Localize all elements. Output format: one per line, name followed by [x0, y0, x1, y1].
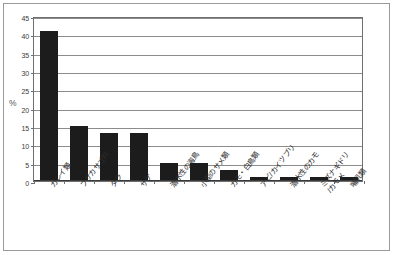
y-tick-label: 40	[22, 33, 29, 40]
chart-figure: % 051015202530354045 カレイ類フサカサゴ科タラサケ潜水性の海…	[0, 0, 394, 255]
y-tick-label: 5	[25, 161, 29, 168]
bar[interactable]	[40, 31, 58, 181]
x-tick-mark	[364, 181, 365, 184]
bar-slot	[364, 18, 365, 181]
y-tick-label: 15	[22, 125, 29, 132]
bar-slot	[124, 18, 154, 181]
y-tick-label: 45	[22, 15, 29, 22]
y-tick-label: 35	[22, 51, 29, 58]
bar-slot	[64, 18, 94, 181]
y-tick-label: 25	[22, 88, 29, 95]
x-axis-labels: カレイ類フサカサゴ科タラサケ潜水性の海鳥小型のサメ類カモ・白鳥類アビ/カイツブリ…	[33, 184, 363, 252]
y-tick-label: 0	[25, 180, 29, 187]
bar-slot	[34, 18, 64, 181]
bar-slot	[154, 18, 184, 181]
y-tick-label: 20	[22, 106, 29, 113]
y-axis-title: %	[9, 98, 17, 108]
y-tick-label: 10	[22, 143, 29, 150]
y-tick-label: 30	[22, 70, 29, 77]
